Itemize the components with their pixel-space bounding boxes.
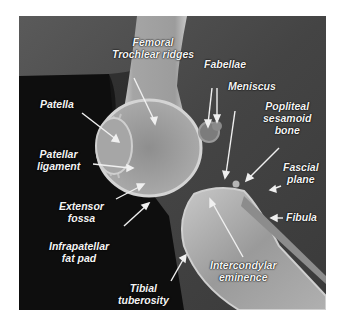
label-text: sesamoid	[263, 112, 311, 124]
label-text: Infrapatellar	[49, 240, 109, 252]
label-text: Meniscus	[228, 80, 276, 92]
label-text: Popliteal	[263, 100, 311, 112]
label-text: Fibula	[286, 211, 317, 223]
label-patellar-ligament: Patellar ligament	[37, 148, 80, 172]
label-text: Trochlear ridges	[112, 48, 194, 60]
label-popliteal-sesamoid-bone: Popliteal sesamoid bone	[263, 100, 311, 136]
label-text: tuberosity	[118, 294, 169, 306]
label-fascial-plane: Fascial plane	[283, 161, 319, 185]
label-text: fat pad	[49, 252, 109, 264]
label-text: eminence	[210, 271, 277, 283]
label-text: Fabellae	[204, 58, 246, 70]
label-text: Intercondylar	[210, 259, 277, 271]
radiograph-image: Femoral Trochlear ridges Patella Patella…	[19, 16, 326, 310]
label-text: bone	[263, 124, 311, 136]
label-text: Patellar	[37, 148, 80, 160]
label-infrapatellar-fat-pad: Infrapatellar fat pad	[49, 240, 109, 264]
label-text: Femoral	[112, 36, 194, 48]
label-text: ligament	[37, 160, 80, 172]
label-text: fossa	[59, 212, 104, 224]
label-tibial-tuberosity: Tibial tuberosity	[118, 282, 169, 306]
label-femoral-trochlear-ridges: Femoral Trochlear ridges	[112, 36, 194, 60]
label-fabellae: Fabellae	[204, 58, 246, 70]
label-patella: Patella	[40, 98, 74, 110]
label-fibula: Fibula	[286, 211, 317, 223]
label-text: Fascial	[283, 161, 319, 173]
label-extensor-fossa: Extensor fossa	[59, 200, 104, 224]
label-meniscus: Meniscus	[228, 80, 276, 92]
label-text: plane	[283, 173, 319, 185]
label-text: Tibial	[118, 282, 169, 294]
label-text: Patella	[40, 98, 74, 110]
label-intercondylar-eminence: Intercondylar eminence	[210, 259, 277, 283]
label-text: Extensor	[59, 200, 104, 212]
